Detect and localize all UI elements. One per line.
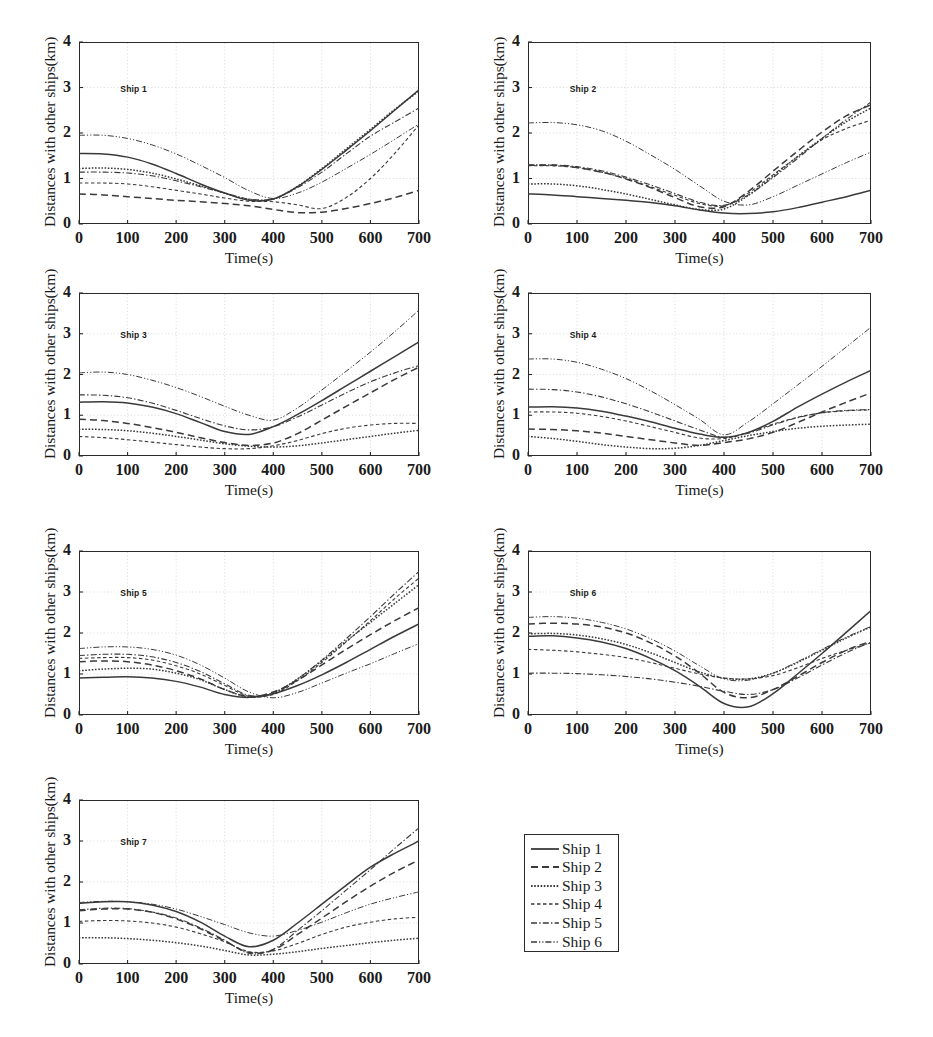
legend-item-ship-4[interactable]: Ship 4	[530, 895, 615, 914]
subplot-annotation: Ship 7	[120, 837, 147, 847]
legend-swatch-dashed	[530, 861, 560, 873]
x-tick-label: 700	[389, 969, 449, 987]
figure-canvas: 010020030040050060070001234Time(s)Distan…	[0, 0, 933, 1037]
subplot-ship-7: 010020030040050060070001234Time(s)Distan…	[0, 0, 933, 1037]
legend-label: Ship 3	[560, 877, 602, 895]
x-axis-label: Time(s)	[79, 989, 419, 1007]
legend-label: Ship 4	[560, 895, 602, 913]
legend-item-ship-1[interactable]: Ship 1	[530, 839, 615, 858]
legend-swatch-solid	[530, 843, 560, 855]
legend-label: Ship 2	[560, 858, 602, 876]
legend-item-ship-2[interactable]: Ship 2	[530, 858, 615, 877]
legend-swatch-dotted	[530, 880, 560, 892]
legend-label: Ship 1	[560, 840, 602, 858]
legend-swatch-fine-dashed	[530, 898, 560, 910]
legend-swatch-dash-dot	[530, 917, 560, 929]
legend-item-ship-3[interactable]: Ship 3	[530, 876, 615, 895]
plot-frame	[79, 800, 419, 964]
legend-item-ship-6[interactable]: Ship 6	[530, 932, 615, 951]
y-axis-label: Distances with other ships(km)	[41, 777, 59, 967]
legend-item-ship-5[interactable]: Ship 5	[530, 913, 615, 932]
legend-swatch-dash-dot-dot	[530, 936, 560, 948]
legend-label: Ship 6	[560, 933, 602, 951]
legend-label: Ship 5	[560, 914, 602, 932]
